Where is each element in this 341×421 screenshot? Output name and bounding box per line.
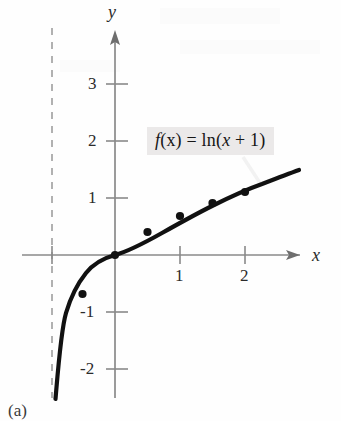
- function-label-arg: (x): [160, 130, 182, 150]
- y-tick-label-minus-2: -2: [80, 359, 94, 379]
- x-tick-label-1: 1: [175, 266, 184, 286]
- figure-caption: (a): [8, 401, 27, 421]
- y-axis-label: y: [108, 2, 116, 23]
- function-label: f(x) = ln(x + 1): [147, 127, 274, 155]
- data-point: [208, 199, 216, 207]
- x-axis-label: x: [312, 245, 320, 266]
- y-tick-label-2: 2: [88, 131, 97, 151]
- y-tick-label-1: 1: [88, 188, 97, 208]
- label-leader-line: [243, 157, 262, 186]
- y-tick-label-minus-1: -1: [80, 302, 94, 322]
- data-point: [111, 251, 119, 259]
- figure-container: 3 2 1 -1 -2 1 2 x y f(x) = ln(x + 1) (a): [0, 0, 341, 421]
- y-tick-label-3: 3: [88, 74, 97, 94]
- data-point: [241, 188, 249, 196]
- plot-canvas: [0, 0, 341, 421]
- data-point: [78, 290, 86, 298]
- function-label-equals: = ln(: [182, 130, 222, 150]
- function-label-tail: + 1): [230, 130, 265, 150]
- x-tick-label-2: 2: [240, 266, 249, 286]
- data-point: [143, 228, 151, 236]
- data-point: [176, 212, 184, 220]
